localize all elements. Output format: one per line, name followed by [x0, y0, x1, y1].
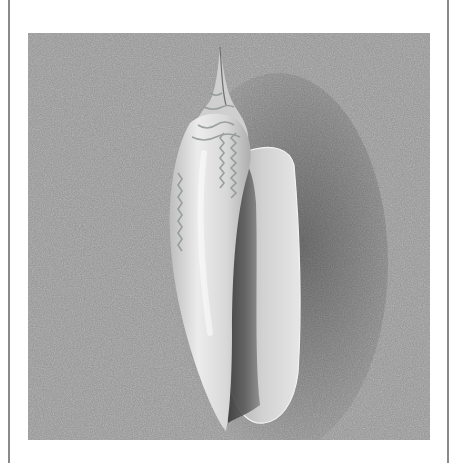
shell-photo: Grayscale photograph of an elongated spi…: [28, 33, 430, 440]
shell-illustration: [28, 33, 430, 440]
frame-right-border: [447, 0, 449, 463]
frame-left-border: [8, 0, 10, 463]
